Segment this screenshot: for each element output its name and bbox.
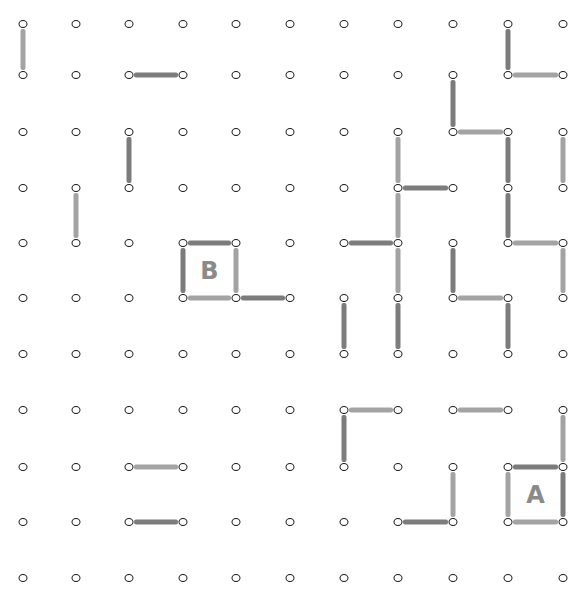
grid-dot[interactable]	[504, 184, 513, 192]
grid-dot[interactable]	[19, 20, 28, 28]
grid-dot[interactable]	[232, 239, 241, 247]
grid-dot[interactable]	[559, 20, 568, 28]
grid-dot[interactable]	[232, 518, 241, 526]
grid-dot[interactable]	[504, 128, 513, 136]
grid-dot[interactable]	[125, 406, 134, 414]
grid-dot[interactable]	[559, 294, 568, 302]
grid-dot[interactable]	[559, 128, 568, 136]
grid-dot[interactable]	[449, 294, 458, 302]
grid-dot[interactable]	[504, 406, 513, 414]
grid-dot[interactable]	[394, 350, 403, 358]
grid-dot[interactable]	[72, 406, 81, 414]
grid-dot[interactable]	[179, 128, 188, 136]
grid-dot[interactable]	[286, 463, 295, 471]
grid-dot[interactable]	[394, 294, 403, 302]
grid-dot[interactable]	[125, 20, 134, 28]
grid-dot[interactable]	[449, 20, 458, 28]
grid-dot[interactable]	[394, 239, 403, 247]
grid-dot[interactable]	[286, 294, 295, 302]
grid-dot[interactable]	[340, 463, 349, 471]
grid-dot[interactable]	[559, 574, 568, 582]
grid-dot[interactable]	[504, 239, 513, 247]
grid-dot[interactable]	[19, 518, 28, 526]
grid-dot[interactable]	[179, 574, 188, 582]
grid-dot[interactable]	[504, 71, 513, 79]
grid-dot[interactable]	[232, 20, 241, 28]
grid-dot[interactable]	[340, 71, 349, 79]
grid-dot[interactable]	[449, 128, 458, 136]
grid-dot[interactable]	[125, 574, 134, 582]
grid-dot[interactable]	[394, 184, 403, 192]
grid-dot[interactable]	[19, 71, 28, 79]
grid-dot[interactable]	[286, 184, 295, 192]
grid-dot[interactable]	[449, 71, 458, 79]
grid-dot[interactable]	[394, 71, 403, 79]
grid-dot[interactable]	[504, 294, 513, 302]
grid-dot[interactable]	[449, 350, 458, 358]
grid-dot[interactable]	[340, 184, 349, 192]
grid-dot[interactable]	[72, 184, 81, 192]
grid-dot[interactable]	[72, 294, 81, 302]
game-board[interactable]: BA	[0, 0, 588, 599]
grid-dot[interactable]	[394, 463, 403, 471]
grid-dot[interactable]	[19, 463, 28, 471]
grid-dot[interactable]	[504, 463, 513, 471]
grid-dot[interactable]	[559, 239, 568, 247]
grid-dot[interactable]	[559, 406, 568, 414]
grid-dot[interactable]	[232, 128, 241, 136]
grid-dot[interactable]	[559, 71, 568, 79]
grid-dot[interactable]	[19, 239, 28, 247]
grid-dot[interactable]	[559, 184, 568, 192]
grid-dot[interactable]	[504, 574, 513, 582]
grid-dot[interactable]	[125, 239, 134, 247]
grid-dot[interactable]	[394, 20, 403, 28]
grid-dot[interactable]	[286, 239, 295, 247]
grid-dot[interactable]	[286, 406, 295, 414]
grid-dot[interactable]	[72, 20, 81, 28]
grid-dot[interactable]	[179, 406, 188, 414]
grid-dot[interactable]	[286, 128, 295, 136]
grid-dot[interactable]	[559, 518, 568, 526]
grid-dot[interactable]	[449, 463, 458, 471]
grid-dot[interactable]	[504, 518, 513, 526]
grid-dot[interactable]	[340, 406, 349, 414]
grid-dot[interactable]	[340, 574, 349, 582]
grid-dot[interactable]	[19, 574, 28, 582]
grid-dot[interactable]	[232, 184, 241, 192]
grid-dot[interactable]	[72, 71, 81, 79]
grid-dot[interactable]	[19, 184, 28, 192]
grid-dot[interactable]	[232, 406, 241, 414]
grid-dot[interactable]	[125, 350, 134, 358]
grid-dot[interactable]	[449, 406, 458, 414]
grid-dot[interactable]	[232, 574, 241, 582]
grid-dot[interactable]	[125, 128, 134, 136]
grid-dot[interactable]	[232, 294, 241, 302]
grid-dot[interactable]	[449, 574, 458, 582]
grid-dot[interactable]	[394, 574, 403, 582]
grid-dot[interactable]	[504, 350, 513, 358]
grid-dot[interactable]	[449, 239, 458, 247]
grid-dot[interactable]	[179, 294, 188, 302]
grid-dot[interactable]	[72, 128, 81, 136]
grid-dot[interactable]	[125, 71, 134, 79]
grid-dot[interactable]	[179, 350, 188, 358]
grid-dot[interactable]	[340, 350, 349, 358]
grid-dot[interactable]	[179, 239, 188, 247]
grid-dot[interactable]	[504, 20, 513, 28]
grid-dot[interactable]	[72, 350, 81, 358]
grid-dot[interactable]	[286, 350, 295, 358]
grid-dot[interactable]	[179, 518, 188, 526]
grid-dot[interactable]	[232, 350, 241, 358]
grid-dot[interactable]	[72, 518, 81, 526]
grid-dot[interactable]	[72, 239, 81, 247]
grid-dot[interactable]	[340, 20, 349, 28]
grid-dot[interactable]	[19, 294, 28, 302]
grid-dot[interactable]	[179, 20, 188, 28]
grid-dot[interactable]	[125, 463, 134, 471]
grid-dot[interactable]	[72, 463, 81, 471]
grid-dot[interactable]	[19, 350, 28, 358]
grid-dot[interactable]	[340, 128, 349, 136]
grid-dot[interactable]	[232, 71, 241, 79]
grid-dot[interactable]	[394, 406, 403, 414]
grid-dot[interactable]	[394, 128, 403, 136]
